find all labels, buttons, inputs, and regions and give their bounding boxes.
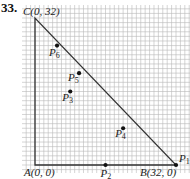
- vertex-label-c: C(0, 32): [23, 5, 60, 18]
- point-p5: [77, 71, 81, 75]
- point-label-p2: P2: [100, 167, 112, 179]
- point-label-p1: P1: [178, 152, 190, 166]
- point-label-p6: P6: [48, 46, 60, 60]
- vertex-label-b: B(32, 0): [140, 166, 176, 179]
- triangle-diagram: C(0, 32)A(0, 0)B(32, 0)P1P2P3P4P5P6: [0, 0, 190, 179]
- vertex-label-a: A(0, 0): [23, 166, 55, 179]
